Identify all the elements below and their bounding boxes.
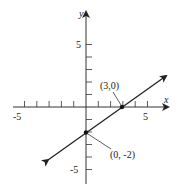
y-tick-label-neg5: -5 <box>70 164 78 175</box>
y-axis-label: y <box>78 8 84 19</box>
x-tick-label-5: 5 <box>143 111 148 122</box>
label-y-intercept: (0, -2) <box>110 149 135 161</box>
coordinate-plot: -5 5 5 -5 x y (3,0) (0, -2) <box>0 0 179 189</box>
label-x-intercept: (3,0) <box>100 80 119 92</box>
point-x-intercept <box>120 105 124 109</box>
x-axis-label: x <box>163 94 169 105</box>
y-tick-label-5: 5 <box>76 39 81 50</box>
x-tick-label-neg5: -5 <box>13 111 21 122</box>
leader-x-intercept <box>113 92 121 105</box>
point-y-intercept <box>84 130 88 134</box>
leader-y-intercept <box>88 134 111 149</box>
